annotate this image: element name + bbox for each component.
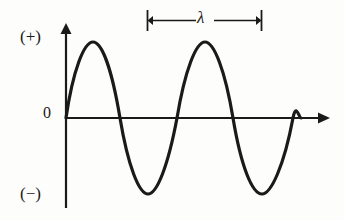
propagation-axis-arrowhead — [318, 113, 330, 124]
wavelength-dimension-group — [148, 10, 262, 31]
wave-diagram-figure: (+) 0 (−) λ — [0, 0, 344, 220]
amplitude-axis-arrowhead — [61, 23, 72, 34]
negative-amplitude-label: (−) — [20, 185, 41, 202]
zero-amplitude-label: 0 — [43, 105, 51, 121]
wavelength-lambda-label: λ — [197, 9, 204, 26]
wave-diagram-canvas — [0, 0, 344, 220]
positive-amplitude-label: (+) — [20, 28, 41, 45]
